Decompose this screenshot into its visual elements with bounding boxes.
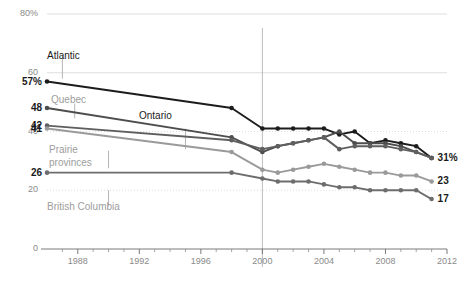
y-axis-tick-20: 20 <box>0 184 38 194</box>
x-axis-tick-2004: 2004 <box>308 256 340 266</box>
data-point-2-3 <box>275 144 280 149</box>
data-point-4-10 <box>383 188 388 193</box>
series-line-quebec <box>47 108 432 158</box>
data-point-4-9 <box>368 188 373 193</box>
x-axis-tick-1992: 1992 <box>123 256 155 266</box>
data-point-4-12 <box>414 188 419 193</box>
data-point-3-12 <box>414 173 419 178</box>
data-point-3-3 <box>275 170 280 175</box>
data-point-2-8 <box>352 144 357 149</box>
data-point-4-0 <box>45 170 50 175</box>
data-point-3-9 <box>368 170 373 175</box>
data-point-4-5 <box>306 179 311 184</box>
x-axis-tick-2012: 2012 <box>431 256 463 266</box>
data-point-2-2 <box>260 147 265 152</box>
series-annotation-atlantic-leader: Atlantic <box>47 50 80 61</box>
data-point-2-10 <box>383 144 388 149</box>
data-point-0-1 <box>229 106 234 111</box>
x-axis-tick-1988: 1988 <box>62 256 94 266</box>
data-point-3-7 <box>337 164 342 169</box>
data-point-1-0 <box>45 106 50 111</box>
data-point-2-7 <box>337 147 342 152</box>
data-point-0-5 <box>306 126 311 131</box>
data-point-2-12 <box>414 150 419 155</box>
series-line-british-columbia <box>47 173 432 199</box>
data-point-3-8 <box>352 167 357 172</box>
data-point-4-8 <box>352 185 357 190</box>
data-point-3-11 <box>399 173 404 178</box>
data-point-4-2 <box>260 176 265 181</box>
start-value-british-columbia: 26 <box>0 167 42 178</box>
data-point-3-6 <box>322 162 327 167</box>
start-value-atlantic: 57% <box>0 76 42 87</box>
chart-plot-area <box>0 0 464 282</box>
y-axis-tick-0: 0 <box>0 243 38 253</box>
data-point-3-13 <box>429 179 434 184</box>
data-point-0-8 <box>352 129 357 134</box>
data-point-0-4 <box>291 126 296 131</box>
data-point-4-3 <box>275 179 280 184</box>
data-point-4-1 <box>229 170 234 175</box>
data-point-2-13 <box>429 156 434 161</box>
series-annotation-bc-leader: British Columbia <box>47 201 120 212</box>
data-point-0-6 <box>322 126 327 131</box>
end-value-prairie-provinces: 23 <box>438 175 449 186</box>
data-point-0-0 <box>45 79 50 84</box>
series-annotation-prairie-leader-line1: Prairie <box>49 144 78 155</box>
series-annotation-prairie-leader-line2: provinces <box>49 157 92 168</box>
data-point-3-0 <box>45 126 50 131</box>
data-point-4-13 <box>429 197 434 202</box>
data-point-4-4 <box>291 179 296 184</box>
data-point-2-4 <box>291 141 296 146</box>
data-point-2-6 <box>322 135 327 140</box>
line-chart: 80%6040200198819921996200020042008201257… <box>0 0 464 282</box>
data-point-3-2 <box>260 167 265 172</box>
data-point-4-6 <box>322 182 327 187</box>
series-annotation-ontario-leader: Ontario <box>139 110 172 121</box>
data-point-0-3 <box>275 126 280 131</box>
data-point-4-11 <box>399 188 404 193</box>
data-point-2-9 <box>368 144 373 149</box>
series-annotation-quebec-leader: Quebec <box>51 94 86 105</box>
data-point-3-10 <box>383 170 388 175</box>
start-value-prairie-provinces: 41 <box>0 123 42 134</box>
data-point-2-5 <box>306 138 311 143</box>
start-value-quebec: 48 <box>0 102 42 113</box>
x-axis-tick-2008: 2008 <box>369 256 401 266</box>
data-point-3-1 <box>229 150 234 155</box>
x-axis-tick-1996: 1996 <box>185 256 217 266</box>
data-point-3-4 <box>291 167 296 172</box>
end-value-atlantic: 31% <box>438 152 458 163</box>
data-point-4-7 <box>337 185 342 190</box>
data-point-0-12 <box>414 144 419 149</box>
end-value-british-columbia: 17 <box>438 193 449 204</box>
data-point-0-2 <box>260 126 265 131</box>
data-point-2-11 <box>399 147 404 152</box>
y-axis-tick-80: 80% <box>0 8 38 18</box>
data-point-3-5 <box>306 164 311 169</box>
data-point-2-1 <box>229 138 234 143</box>
data-point-1-7 <box>337 129 342 134</box>
x-axis-tick-2000: 2000 <box>246 256 278 266</box>
